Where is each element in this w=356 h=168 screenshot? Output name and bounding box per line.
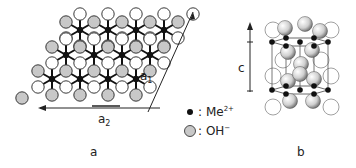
metal-dot [133,76,139,82]
metal-atom [311,83,317,89]
metal-atom [283,83,289,89]
a1-label: a1 [140,70,152,85]
hydroxide-circle [116,16,128,28]
a2-label: a2 [98,113,110,128]
open-oxygen-circle [130,57,142,69]
open-oxygen-circle [116,81,128,93]
panel-a-label: a [90,146,97,158]
metal-dot [63,52,69,58]
hydroxide-circle [32,65,44,77]
hydroxide-circle [74,41,86,53]
hydroxide-circle [88,65,100,77]
metal-dot [133,27,139,33]
c-arrowhead-icon [247,22,253,30]
ghost-sphere-outline [323,68,339,84]
hydroxide-circle [88,16,100,28]
metal-atom [283,35,289,41]
c-label: c [238,62,245,74]
metal-atom [269,87,275,93]
open-oxygen-circle [74,57,86,69]
legend-hydroxide-label: : OH− [198,125,230,137]
open-oxygen-circle [60,81,72,93]
open-oxygen-circle [144,33,156,45]
hydroxide-sphere [293,67,308,82]
open-oxygen-circle [130,8,142,20]
hydroxide-circle [74,89,86,101]
hydroxide-circle [102,89,114,101]
open-oxygen-circle [172,32,184,44]
hydroxide-circle [16,92,28,104]
hydroxide-circle [130,41,142,53]
open-oxygen-circle [60,33,72,45]
hydroxide-circle [158,41,170,53]
metal-dot [91,52,97,58]
legend-metal-label: : Me2+ [198,106,234,118]
metal-atom [297,39,303,45]
open-oxygen-circle [46,57,58,69]
open-oxygen-circle [32,81,44,93]
metal-atom [311,91,317,97]
structure-diagram [0,0,356,168]
hydroxide-circle [144,16,156,28]
metal-dot [105,27,111,33]
metal-dot [105,76,111,82]
legend-metal-icon [187,109,193,115]
hydroxide-circle [172,16,184,28]
open-oxygen-circle [74,8,86,20]
metal-atom [283,91,289,97]
a2-arrowhead-icon [38,105,46,111]
hydroxide-circle [46,41,58,53]
metal-atom [325,39,331,45]
hydroxide-circle [46,89,58,101]
open-oxygen-circle [116,33,128,45]
open-oxygen-circle [88,33,100,45]
metal-atom [311,35,317,41]
metal-dot [77,27,83,33]
open-oxygen-circle [102,57,114,69]
hydroxide-layer-lattice [16,8,199,104]
metal-dot [119,52,125,58]
metal-dot [147,52,153,58]
hydroxide-circle [60,16,72,28]
metal-dot [49,76,55,82]
open-oxygen-circle [102,8,114,20]
hydroxide-circle [102,41,114,53]
metal-atom [297,87,303,93]
hydroxide-sphere [278,21,293,36]
open-oxygen-circle [158,8,170,20]
ghost-sphere-outline [265,68,281,84]
hydroxide-sphere [298,17,313,32]
panel-b-label: b [297,146,305,158]
metal-dot [161,27,167,33]
metal-dot [77,76,83,82]
hydroxide-circle [116,65,128,77]
hydroxide-circle [130,89,142,101]
metal-atom [311,43,317,49]
legend-hydroxide-icon [185,126,196,137]
hydroxide-circle [60,65,72,77]
metal-atom [269,39,275,45]
metal-atom [283,43,289,49]
open-oxygen-circle [88,81,100,93]
ghost-sphere-outline [265,99,281,115]
metal-atom [325,87,331,93]
ghost-sphere-outline [323,99,339,115]
unit-cell-3d [265,17,339,116]
